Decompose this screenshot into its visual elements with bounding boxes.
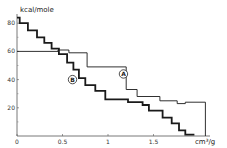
ticks: 00.511.520406080 <box>7 19 158 145</box>
x-axis-title: cm³/g <box>195 138 215 146</box>
labels: kcal/mole cm³/g <box>20 6 215 146</box>
y-axis-title: kcal/mole <box>20 6 54 14</box>
y-tick-label: 60 <box>7 47 15 54</box>
series-b-line <box>17 18 194 135</box>
x-tick-label: 1 <box>106 138 110 145</box>
y-tick-label: 20 <box>7 104 15 111</box>
x-tick-label: 0.5 <box>58 138 68 145</box>
y-tick-label: 80 <box>7 19 15 26</box>
series-b-label: B <box>70 76 75 83</box>
axes <box>17 14 210 136</box>
x-tick-label: 0 <box>15 138 19 145</box>
x-tick-label: 1.5 <box>149 138 159 145</box>
series-group: AB <box>17 18 205 136</box>
energy-distribution-chart: 00.511.520406080 AB kcal/mole cm³/g <box>0 0 227 148</box>
y-tick-label: 40 <box>7 76 15 83</box>
series-a-label: A <box>121 70 126 77</box>
